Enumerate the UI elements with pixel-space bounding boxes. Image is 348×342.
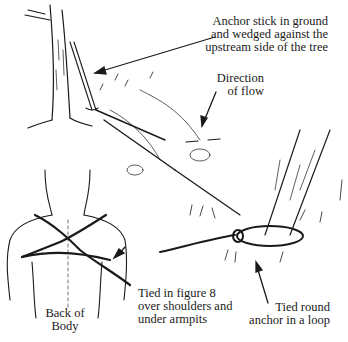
rope-line	[96, 110, 175, 170]
grass	[190, 180, 342, 262]
anchor-stick	[70, 42, 98, 110]
illustration: Anchor stick in ground and wedged agains…	[0, 0, 348, 342]
label-tied-round-anchor: Tied round anchor in a loop	[230, 301, 330, 327]
label-anchor-stick: Anchor stick in ground and wedged agains…	[190, 15, 328, 54]
person-back	[7, 170, 126, 318]
label-direction-of-flow: Direction of flow	[200, 72, 264, 98]
label-back-of-body: Back of Body	[40, 307, 90, 333]
rope-loop-right	[160, 226, 303, 252]
